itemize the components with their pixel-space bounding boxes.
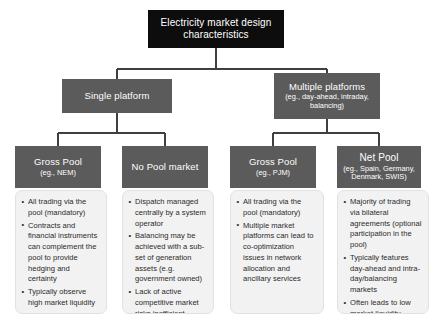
bullet-item: Dispatch managed centrally by a system o…: [128, 197, 207, 229]
node-single-platform: Single platform: [62, 79, 172, 113]
node-multiple-platforms: Multiple platforms (eg., day-ahead, intr…: [274, 73, 380, 119]
bullet-item: Typically observe high market liquidity: [21, 287, 100, 309]
bullet-list: Majority of trading via bilateral agreem…: [343, 197, 422, 314]
bullet-list: All trading via the pool (mandatory)Mult…: [236, 197, 317, 285]
bullet-item: Majority of trading via bilateral agreem…: [343, 197, 422, 251]
bullet-item: Multiple market platforms can lead to co…: [236, 221, 317, 286]
bullet-item: All trading via the pool (mandatory): [21, 197, 100, 219]
bullet-panel-no-pool-market: Dispatch managed centrally by a system o…: [122, 190, 214, 314]
node-multiple-platforms-subtitle: (eg., day-ahead, intraday, balancing): [278, 93, 376, 111]
bullet-list: Dispatch managed centrally by a system o…: [128, 197, 207, 314]
node-net-pool-subtitle: (eg., Spain, Germany, Denmark, SWIS): [341, 165, 417, 183]
node-gross-pool-nem-title: Gross Pool: [34, 156, 82, 167]
node-gross-pool-nem: Gross Pool (eg., NEM): [15, 146, 101, 188]
bullet-panel-net-pool: Majority of trading via bilateral agreem…: [337, 190, 429, 314]
bullet-item: Typically features day-ahead and intra-d…: [343, 253, 422, 296]
node-single-platform-title: Single platform: [85, 90, 150, 101]
bullet-item: Contracts and financial instruments can …: [21, 221, 100, 286]
bullet-panel-gross-pool-nem: All trading via the pool (mandatory)Cont…: [15, 190, 107, 314]
bullet-list: All trading via the pool (mandatory)Cont…: [21, 197, 100, 309]
bullet-item: Balancing may be achieved with a sub-set…: [128, 231, 207, 285]
node-no-pool-market-title: No Pool market: [132, 161, 199, 172]
node-multiple-platforms-title: Multiple platforms: [289, 81, 365, 92]
bullet-item: Often leads to low market liquidity: [343, 298, 422, 314]
bullet-item: All trading via the pool (mandatory): [236, 197, 317, 219]
bullet-panel-gross-pool-pjm: All trading via the pool (mandatory)Mult…: [230, 190, 324, 314]
node-gross-pool-nem-subtitle: (eg., NEM): [40, 169, 76, 178]
node-no-pool-market: No Pool market: [122, 146, 208, 188]
node-gross-pool-pjm: Gross Pool (eg., PJM): [230, 146, 316, 188]
node-net-pool-title: Net Pool: [359, 152, 398, 164]
node-gross-pool-pjm-subtitle: (eg., PJM): [256, 169, 290, 178]
node-net-pool: Net Pool (eg., Spain, Germany, Denmark, …: [337, 146, 421, 188]
node-root-title: Electricity market design characteristic…: [152, 17, 280, 41]
electricity-market-design-diagram: Electricity market design characteristic…: [0, 0, 433, 335]
node-gross-pool-pjm-title: Gross Pool: [249, 156, 297, 167]
bullet-item: Lack of active competitive market risks …: [128, 287, 207, 314]
node-root-electricity-market-design: Electricity market design characteristic…: [148, 10, 284, 48]
